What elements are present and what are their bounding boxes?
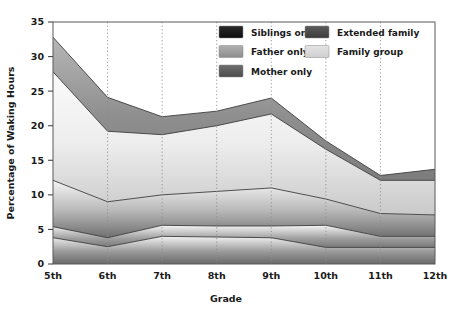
y-axis: 05101520253035: [31, 16, 53, 269]
chart-canvas: 05101520253035 5th6th7th8th9th10th11th12…: [0, 0, 452, 318]
y-tick-label-10: 10: [31, 189, 45, 200]
x-axis: 5th6th7th8th9th10th11th12th: [44, 270, 447, 281]
legend-label-father-only: Father only: [251, 47, 309, 57]
y-tick-label-25: 25: [31, 86, 44, 97]
legend-swatch-extended-family: [305, 26, 329, 38]
legend-swatch-father-only: [219, 46, 243, 58]
legend-swatch-siblings-only: [219, 26, 243, 38]
x-tick-label-10th: 10th: [314, 270, 339, 281]
y-tick-label-15: 15: [31, 155, 44, 166]
y-tick-label-20: 20: [31, 120, 45, 131]
legend-label-family-group: Family group: [337, 47, 404, 57]
x-tick-label-11th: 11th: [368, 270, 393, 281]
legend-swatch-mother-only: [219, 65, 243, 77]
stacked-area-chart: 05101520253035 5th6th7th8th9th10th11th12…: [0, 0, 452, 318]
y-tick-label-35: 35: [31, 16, 44, 27]
legend-label-extended-family: Extended family: [337, 28, 419, 38]
legend-swatch-family-group: [305, 46, 329, 58]
y-tick-label-30: 30: [31, 51, 45, 62]
x-tick-label-7th: 7th: [153, 270, 171, 281]
x-tick-label-9th: 9th: [262, 270, 280, 281]
y-axis-title: Percentage of Waking Hours: [5, 66, 16, 219]
x-tick-label-5th: 5th: [44, 270, 62, 281]
y-tick-label-5: 5: [37, 224, 44, 235]
x-tick-label-6th: 6th: [99, 270, 117, 281]
x-tick-label-12th: 12th: [423, 270, 448, 281]
x-tick-label-8th: 8th: [208, 270, 226, 281]
legend-label-mother-only: Mother only: [251, 67, 312, 77]
y-tick-label-0: 0: [37, 258, 44, 269]
x-axis-title: Grade: [210, 293, 242, 304]
